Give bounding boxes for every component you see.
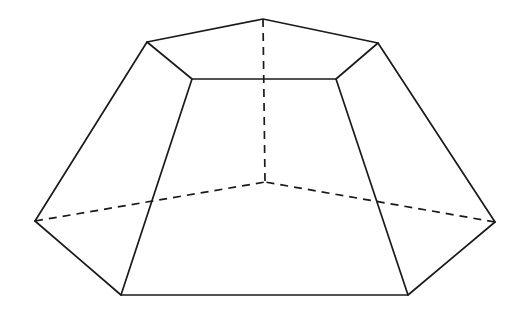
figure-canvas — [0, 0, 521, 316]
face-group — [35, 19, 495, 295]
pentagonal-frustum-diagram — [0, 0, 521, 316]
